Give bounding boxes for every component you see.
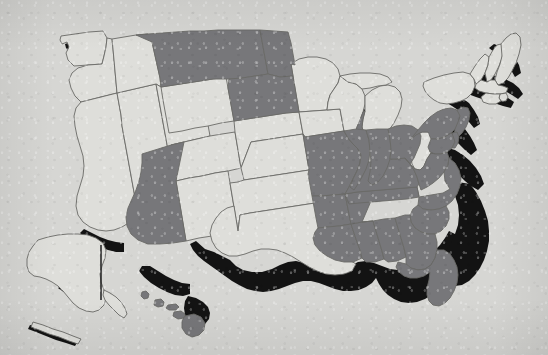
state-AR[interactable] xyxy=(312,194,351,228)
state-CT[interactable] xyxy=(481,93,501,104)
us-states-map xyxy=(0,0,548,355)
state-NY[interactable] xyxy=(423,72,475,104)
state-AK[interactable] xyxy=(27,234,106,312)
state-AK-panhandle[interactable] xyxy=(103,290,127,318)
state-HI-molokai[interactable] xyxy=(166,304,179,310)
state-HI-maui[interactable] xyxy=(173,311,185,319)
state-HI-oahu[interactable] xyxy=(154,299,164,307)
us-map-figure: United States choropleth map Outline map… xyxy=(0,0,548,355)
state-HI-bigisland[interactable] xyxy=(182,314,205,337)
state-HI-kauai[interactable] xyxy=(141,291,149,299)
